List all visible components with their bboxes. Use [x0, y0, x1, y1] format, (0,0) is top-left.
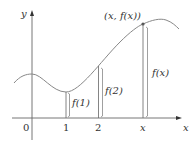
y-axis-arrow-icon — [30, 10, 34, 16]
x-axis-label: x — [183, 123, 189, 133]
x-axis-arrow-icon — [176, 116, 182, 120]
height-label-fx: f(x) — [152, 68, 169, 78]
origin-label: 0 — [23, 123, 29, 133]
height-label-f1: f(1) — [72, 98, 90, 108]
tick-label-x: x — [140, 123, 146, 133]
function-curve — [14, 19, 179, 92]
point-label: (x, f(x)) — [104, 11, 141, 21]
height-label-f2: f(2) — [105, 86, 123, 96]
y-axis-label: y — [21, 9, 27, 19]
bracket-f1 — [68, 93, 70, 117]
tick-label-2: 2 — [95, 123, 101, 133]
bracket-f2 — [101, 68, 103, 117]
bracket-fx — [146, 27, 148, 117]
tick-label-1: 1 — [63, 123, 69, 133]
